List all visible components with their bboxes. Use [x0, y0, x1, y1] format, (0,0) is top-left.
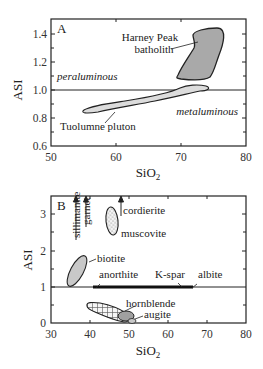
- augite-field-tail: [128, 319, 136, 324]
- x-axis-title: SiO2: [136, 165, 161, 182]
- tuolumne-label: Tuolumne pluton: [60, 120, 136, 132]
- garnet-label: garnet: [80, 198, 92, 225]
- kspar-label: K-spar: [155, 268, 185, 280]
- x-tick-label: 70: [175, 151, 187, 163]
- panel-a: 0.6 0.8 1.0 1.2 1.4 50 60 70 80 SiO2 ASI…: [10, 19, 252, 182]
- figure: 0.6 0.8 1.0 1.2 1.4 50 60 70 80 SiO2 ASI…: [0, 0, 263, 369]
- x-tick-label: 50: [123, 328, 135, 340]
- y-axis-title: ASI: [10, 80, 25, 101]
- y-tick-label: 0.8: [33, 112, 48, 124]
- cordierite-label: cordierite: [123, 204, 165, 216]
- x-tick-label: 30: [45, 328, 57, 340]
- y-tick-label: 1.2: [33, 56, 48, 68]
- y-tick-label: 1.0: [33, 84, 48, 96]
- augite-label: augite: [144, 308, 171, 320]
- peraluminous-label: peraluminous: [56, 70, 118, 82]
- harney-label-1: Harney Peak: [122, 31, 179, 43]
- x-tick-label: 50: [45, 151, 57, 163]
- feldspar-bar: [93, 286, 193, 289]
- albite-label: albite: [198, 268, 223, 280]
- panel-label: A: [57, 21, 67, 36]
- biotite-field: [63, 253, 90, 289]
- y-axis-title: ASI: [20, 250, 35, 271]
- x-tick-label: 60: [162, 328, 174, 340]
- anorthite-label: anorthite: [99, 268, 138, 280]
- y-tick-label: 2: [40, 245, 46, 257]
- panel-b: 0 1 2 3 30 40 50 60 70 80 SiO2 ASI B: [20, 191, 252, 360]
- y-tick-label: 1: [40, 281, 46, 293]
- muscovite-field: [105, 206, 120, 235]
- panel-label: B: [57, 198, 66, 213]
- harney-peak-field: [177, 28, 224, 80]
- x-tick-label: 80: [240, 328, 252, 340]
- x-tick-label: 40: [84, 328, 96, 340]
- biotite-label: biotite: [97, 252, 125, 264]
- muscovite-label: muscovite: [121, 227, 166, 239]
- harney-label-2: batholith: [134, 43, 174, 55]
- x-tick-label: 80: [240, 151, 252, 163]
- x-tick-label: 60: [110, 151, 122, 163]
- y-tick-label: 3: [40, 208, 46, 220]
- metaluminous-label: metaluminous: [176, 105, 238, 117]
- x-tick-label: 70: [201, 328, 213, 340]
- y-tick-label: 1.4: [33, 28, 48, 40]
- arrow-up-icon: [119, 196, 124, 202]
- x-axis-title: SiO2: [136, 343, 161, 360]
